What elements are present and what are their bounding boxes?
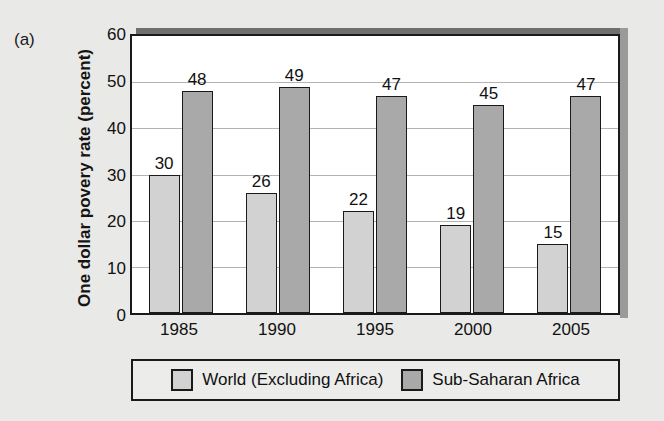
bar-value-label: 48 [188,71,207,88]
bar-wrap: 49 [279,36,310,313]
y-tick-label: 50 [86,72,126,89]
bar-wrap: 48 [182,36,213,313]
bar-group: 1547 [521,36,618,313]
x-tick-label: 1990 [228,320,326,340]
legend-label: Sub-Saharan Africa [432,370,579,390]
legend-item[interactable]: Sub-Saharan Africa [401,369,579,391]
bar-value-label: 47 [382,76,401,93]
bar-value-label: 15 [543,224,562,241]
y-tick-label: 30 [86,166,126,183]
bar[interactable] [473,105,504,313]
x-axis-tick-labels: 19851990199520002005 [130,320,620,340]
bar[interactable] [537,244,568,313]
chart-legend: World (Excluding Africa)Sub-Saharan Afri… [131,359,620,401]
bar[interactable] [246,193,277,313]
plot-area: 30482649224719451547 [132,36,618,313]
bar[interactable] [440,225,471,313]
y-tick-label: 60 [86,26,126,43]
bar-layer: 30482649224719451547 [132,36,618,313]
bar[interactable] [343,211,374,313]
bar-wrap: 22 [343,36,374,313]
bar-group: 3048 [132,36,229,313]
bar-value-label: 49 [285,67,304,84]
bar-group: 1945 [424,36,521,313]
bar-wrap: 47 [570,36,601,313]
bar-wrap: 15 [537,36,568,313]
x-tick-label: 1985 [130,320,228,340]
bar-wrap: 30 [149,36,180,313]
bar-value-label: 22 [349,191,368,208]
bar[interactable] [149,175,180,314]
bar-group: 2247 [326,36,423,313]
bar[interactable] [279,87,310,313]
bar-value-label: 45 [479,85,498,102]
y-axis-tick-labels: 0102030405060 [86,28,126,315]
y-tick-label: 10 [86,260,126,277]
bar-wrap: 45 [473,36,504,313]
bar-value-label: 47 [576,76,595,93]
legend-label: World (Excluding Africa) [202,370,383,390]
bar-value-label: 30 [155,155,174,172]
legend-swatch [171,369,193,391]
bar-value-label: 19 [446,205,465,222]
bar-wrap: 26 [246,36,277,313]
y-tick-label: 40 [86,119,126,136]
y-tick-label: 0 [86,307,126,324]
plot-frame: 30482649224719451547 [130,34,620,315]
figure-panel-a: (a) One dollar povery rate (percent) 010… [0,0,664,421]
panel-label: (a) [14,30,35,50]
bar[interactable] [182,91,213,313]
bar-value-label: 26 [252,173,271,190]
bar[interactable] [570,96,601,313]
x-tick-label: 1995 [326,320,424,340]
x-tick-label: 2005 [522,320,620,340]
x-tick-label: 2000 [424,320,522,340]
y-tick-label: 20 [86,213,126,230]
bar-wrap: 47 [376,36,407,313]
legend-item[interactable]: World (Excluding Africa) [171,369,383,391]
bar-group: 2649 [229,36,326,313]
legend-swatch [401,369,423,391]
plot-shadow-right [620,28,628,318]
bar[interactable] [376,96,407,313]
bar-wrap: 19 [440,36,471,313]
